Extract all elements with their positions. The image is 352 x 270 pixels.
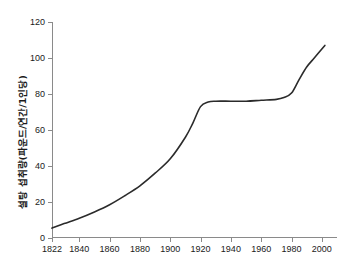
y-axis-title: 설탕 섭취량(파운드/연간/1인당) [11,52,33,232]
x-tick-label: 1920 [191,244,211,254]
x-tick-label: 1822 [42,244,62,254]
x-tick-label: 2000 [312,244,332,254]
y-tick-label: 20 [35,197,45,207]
y-tick-label: 80 [35,89,45,99]
line-series-path [52,45,325,228]
y-tick-label: 0 [40,233,45,243]
x-tick-label: 1900 [160,244,180,254]
y-tick-label: 60 [35,125,45,135]
chart-figure: 설탕 섭취량(파운드/연간/1인당) 020406080100120 18221… [0,0,352,270]
y-axis-title-text: 설탕 섭취량(파운드/연간/1인당) [15,75,29,209]
y-tick-label: 40 [35,161,45,171]
x-tick-label: 1980 [282,244,302,254]
y-tick-label: 100 [30,53,45,63]
x-tick-label: 1880 [130,244,150,254]
x-tick-label: 1840 [69,244,89,254]
plot-area: 020406080100120 182218401860188019001920… [52,22,337,238]
x-tick-label: 1940 [221,244,241,254]
x-tick-label: 1960 [251,244,271,254]
x-tick-label: 1860 [100,244,120,254]
y-tick-label: 120 [30,17,45,27]
line-series-svg [52,22,337,238]
